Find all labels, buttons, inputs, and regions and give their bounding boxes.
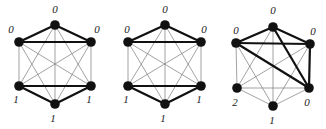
vertex-label: 1 (13, 93, 19, 105)
vertex-ll (123, 81, 133, 91)
vertex-label: 0 (270, 4, 276, 16)
vertex-ul (14, 37, 24, 47)
graph-1: 000111 (8, 3, 100, 124)
vertex-label: 1 (196, 93, 202, 105)
vertex-bot (160, 99, 170, 109)
vertex-label: 0 (233, 24, 239, 36)
vertex-label: 1 (86, 93, 92, 105)
graph-2: 000111 (123, 3, 207, 124)
vertex-label: 1 (160, 112, 166, 124)
graph-diagram: 000111000111000201 (0, 0, 326, 129)
vertex-label: 0 (201, 23, 207, 35)
vertex-lr (196, 81, 206, 91)
vertex-top (50, 20, 60, 30)
vertex-label: 0 (94, 23, 100, 35)
thick-edge (236, 43, 309, 88)
vertex-label: 1 (50, 112, 56, 124)
vertex-label: 0 (124, 23, 130, 35)
vertex-ll (14, 81, 24, 91)
vertex-label: 0 (52, 3, 58, 15)
vertex-bot (268, 101, 278, 111)
vertex-lr (86, 81, 96, 91)
vertex-label: 2 (232, 96, 238, 108)
vertex-label: 0 (8, 23, 14, 35)
vertex-top (160, 20, 170, 30)
vertex-label: 1 (269, 114, 275, 126)
thin-edge (236, 43, 237, 88)
vertex-ul (231, 38, 241, 48)
graph-3: 000201 (231, 4, 316, 126)
vertex-label: 1 (123, 93, 129, 105)
vertex-ur (305, 39, 315, 49)
thick-edge (236, 27, 273, 43)
vertex-label: 0 (162, 3, 168, 15)
thick-edge (236, 43, 310, 44)
vertex-ur (86, 37, 96, 47)
vertex-ur (196, 37, 206, 47)
vertex-ll (232, 83, 242, 93)
vertex-lr (304, 83, 314, 93)
thin-edge (237, 27, 273, 88)
thick-edge (309, 44, 310, 88)
vertex-label: 0 (310, 25, 316, 37)
vertex-ul (123, 37, 133, 47)
vertex-top (268, 22, 278, 32)
vertex-label: 0 (304, 96, 310, 108)
vertex-bot (50, 99, 60, 109)
